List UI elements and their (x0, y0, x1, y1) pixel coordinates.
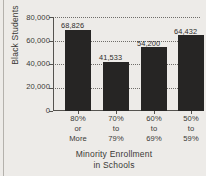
x-axis-title-line2: in Schools (28, 160, 200, 171)
bar-chart-figure: Black Students 80,000 60,000 40,000 20,0… (0, 0, 206, 176)
x-category-50-to-59: 50% to 59% (169, 114, 206, 144)
y-tick-mark (49, 41, 53, 42)
bar-value-label: 41,533 (99, 54, 122, 61)
bar-value-label: 64,432 (174, 28, 197, 35)
bar-value-label: 68,826 (61, 22, 84, 29)
bar-70-to-79-percent (103, 62, 129, 111)
y-tick-label: 20,000 (8, 83, 50, 91)
x-axis-title: Minority Enrollment in Schools (28, 149, 200, 171)
x-axis-title-line1: Minority Enrollment (28, 149, 200, 160)
y-tick-mark (49, 111, 53, 112)
x-axis-category-labels: 80% or More 70% to 79% 60% to 69% 50% to… (53, 114, 200, 148)
x-category-line: 59% (169, 134, 206, 144)
y-tick-label: 0 (8, 107, 50, 115)
y-tick-mark (49, 17, 53, 18)
y-tick-label: 80,000 (8, 14, 50, 22)
gridline-80000 (53, 17, 200, 18)
bar-50-to-59-percent (178, 35, 204, 111)
y-tick-mark (49, 88, 53, 89)
x-category-line: 50% (169, 114, 206, 124)
y-tick-mark (49, 64, 53, 65)
y-tick-label: 60,000 (8, 37, 50, 45)
bar-80-percent-or-more (65, 30, 91, 111)
plot-area: 68,826 41,533 54,200 64,432 (53, 17, 200, 111)
x-category-line: to (169, 124, 206, 134)
bar-value-label: 54,200 (137, 40, 160, 47)
y-tick-label: 40,000 (8, 60, 50, 68)
y-axis-line (53, 17, 54, 111)
bar-60-to-69-percent (141, 47, 167, 111)
